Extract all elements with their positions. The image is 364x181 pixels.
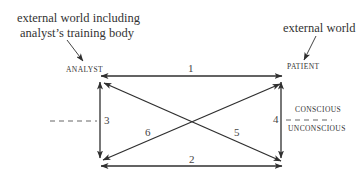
right-external-note: external world — [283, 21, 356, 36]
right-note-pointer — [304, 36, 316, 60]
edge-label-5: 5 — [234, 126, 240, 138]
edge-label-6: 6 — [145, 126, 151, 138]
left-external-note: external world including analyst’s train… — [17, 11, 137, 41]
left-note-pointer — [67, 40, 83, 61]
edge-label-1: 1 — [188, 62, 194, 74]
analyst-label: ANALYST — [66, 65, 103, 74]
patient-label: PATIENT — [287, 62, 320, 71]
left-note-line-1: external world including — [17, 11, 137, 26]
conscious-label: CONSCIOUS — [295, 105, 341, 114]
edge-label-3: 3 — [104, 114, 110, 126]
unconscious-label: UNCONSCIOUS — [288, 124, 346, 133]
edge-label-4: 4 — [273, 113, 279, 125]
edge-label-2: 2 — [189, 153, 195, 165]
communication-diagram: external world including analyst’s train… — [0, 0, 364, 181]
left-note-line-2: analyst’s training body — [17, 26, 137, 41]
